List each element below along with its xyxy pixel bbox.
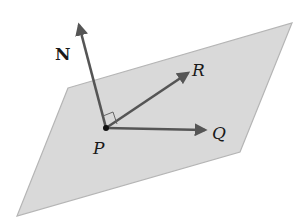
point-p xyxy=(103,125,109,131)
label-r: R xyxy=(191,60,205,80)
label-p: P xyxy=(92,138,105,158)
label-n: N xyxy=(55,44,71,64)
plane-diagram: N P R Q xyxy=(0,0,298,218)
label-q: Q xyxy=(212,123,226,143)
